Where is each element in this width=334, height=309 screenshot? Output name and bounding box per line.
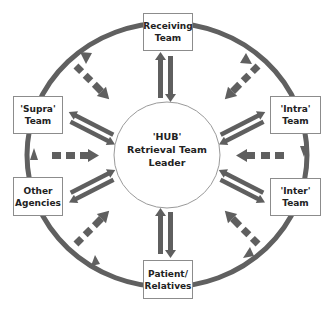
node-patient-relatives: Patient/ Relatives <box>143 260 193 299</box>
arrow-supra-hub <box>63 108 121 149</box>
arrow-inter-hub <box>213 166 271 207</box>
hub-label: 'HUB' Retrieval Team Leader <box>115 130 219 169</box>
dashed-arrow-right <box>236 149 284 162</box>
node-receiving-team: Receiving Team <box>143 13 193 51</box>
ring-arrow-icon <box>91 255 100 266</box>
dashed-arrow-top-left <box>71 61 113 103</box>
ring-arrow-icon <box>30 148 38 160</box>
arrow-receiving-hub <box>155 52 176 102</box>
arrow-patient-hub <box>155 208 176 258</box>
arrow-intra-hub <box>213 108 271 149</box>
node-intra-team: 'Intra' Team <box>270 96 321 134</box>
dashed-arrow-bottom-left <box>71 206 113 248</box>
dashed-arrow-top-right <box>220 61 262 103</box>
ring-arrow-icon <box>80 52 92 64</box>
ring-arrow-icon <box>240 53 252 64</box>
node-inter-team: 'Inter' Team <box>270 178 321 216</box>
dashed-arrow-left <box>52 149 99 162</box>
ring-arrow-icon <box>243 247 254 258</box>
arrow-other-hub <box>63 166 121 207</box>
node-supra-team: 'Supra' Team <box>13 96 63 134</box>
node-other-agencies: Other Agencies <box>13 177 63 216</box>
dashed-arrow-bottom-right <box>220 206 262 248</box>
